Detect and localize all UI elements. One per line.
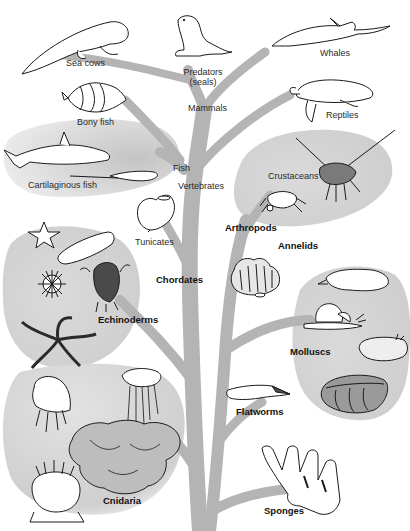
tree-of-life-diagram: Sea cows Predators (seals) Whales Mammal…: [0, 0, 410, 531]
label-cartilaginous-fish: Cartilaginous fish: [28, 180, 97, 190]
label-vertebrates: Vertebrates: [178, 181, 224, 191]
label-tunicates: Tunicates: [135, 237, 174, 247]
label-predators-line2: (seals): [178, 77, 228, 87]
label-predators: Predators (seals): [178, 67, 228, 87]
label-predators-line1: Predators: [178, 67, 228, 77]
clam-icon: [321, 375, 387, 413]
label-sea-cows: Sea cows: [66, 58, 105, 68]
label-fish: Fish: [173, 163, 190, 173]
label-mammals: Mammals: [188, 103, 227, 113]
label-chordates: Chordates: [156, 275, 203, 285]
dolphin-icon: [272, 18, 390, 46]
label-molluscs: Molluscs: [290, 347, 331, 357]
label-arthropods: Arthropods: [225, 223, 277, 233]
sea-urchin-icon: [38, 270, 66, 298]
label-crustaceans: Crustaceans: [268, 171, 319, 181]
label-whales: Whales: [320, 48, 350, 58]
label-sponges: Sponges: [264, 506, 304, 516]
label-flatworms: Flatworms: [236, 407, 284, 417]
label-bony-fish: Bony fish: [77, 117, 114, 127]
flatworm-icon: [227, 385, 290, 399]
label-reptiles: Reptiles: [326, 110, 359, 120]
label-echinoderms: Echinoderms: [98, 315, 158, 325]
label-annelids: Annelids: [278, 241, 318, 251]
label-cnidaria: Cnidaria: [103, 496, 141, 506]
seal-icon: [175, 16, 232, 56]
tubeworm-icon: [231, 258, 279, 297]
angelfish-icon: [62, 83, 126, 112]
